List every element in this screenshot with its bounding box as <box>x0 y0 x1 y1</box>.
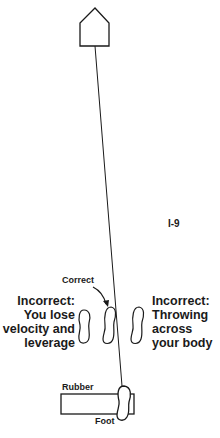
caption-line: your body <box>152 336 220 350</box>
incorrect-right-caption: Incorrect: Throwing across your body <box>152 294 220 350</box>
footprint-incorrect-left-icon <box>79 310 90 343</box>
caption-line: velocity and <box>0 322 75 336</box>
home-plate-icon <box>80 8 109 46</box>
throwing-line <box>95 46 122 386</box>
pivot-foot-icon <box>117 386 130 420</box>
arrowhead-icon <box>103 300 109 307</box>
caption-line: Throwing <box>152 308 220 322</box>
footprint-incorrect-right-icon <box>131 307 144 344</box>
rubber-label: Rubber <box>62 382 94 392</box>
foot-label: Foot <box>95 416 115 426</box>
footprint-correct-icon <box>103 307 116 344</box>
caption-line: Incorrect: <box>152 294 220 308</box>
caption-line: leverage <box>0 336 75 350</box>
caption-line: across <box>152 322 220 336</box>
correct-label: Correct <box>62 275 94 285</box>
caption-line: Incorrect: <box>0 294 75 308</box>
pitching-stride-diagram <box>0 0 220 438</box>
incorrect-left-caption: Incorrect: You lose velocity and leverag… <box>0 294 75 350</box>
caption-line: You lose <box>0 308 75 322</box>
figure-id-label: I-9 <box>168 219 180 229</box>
